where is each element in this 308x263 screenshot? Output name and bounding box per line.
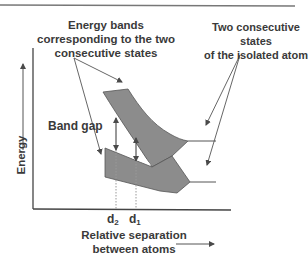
- top-rule: [0, 5, 295, 6]
- x-axis: [33, 209, 231, 210]
- energy-bands-label-line1: Energy bands: [36, 18, 176, 32]
- x-axis-label-line1: Relative separation: [64, 228, 204, 242]
- d1-label-sub: 1: [136, 218, 140, 227]
- bands-pointer-lower-icon: [74, 58, 101, 154]
- energy-band-diagram: Energy bands corresponding to the two co…: [0, 0, 308, 263]
- energy-bands-label: Energy bands corresponding to the two co…: [36, 18, 176, 60]
- isolated-states-label-line2: of the isolated atom: [204, 48, 308, 62]
- states-pointer-upper-icon: [206, 55, 240, 125]
- x-axis-label: Relative separation between atoms: [64, 228, 204, 256]
- d2-label-sub: 2: [114, 218, 118, 227]
- y-axis-label: Energy: [14, 130, 28, 180]
- energy-bands-label-line3: consecutive states: [36, 46, 176, 60]
- bands-pointer-upper-icon: [74, 58, 122, 82]
- states-pointer-lower-icon: [207, 55, 240, 165]
- isolated-states-label-line1: Two consecutive states: [204, 20, 308, 48]
- isolated-states-label: Two consecutive states of the isolated a…: [204, 20, 308, 62]
- x-axis-label-line2: between atoms: [64, 242, 204, 256]
- band-gap-label: Band gap: [48, 119, 103, 133]
- energy-bands-label-line2: corresponding to the two: [36, 32, 176, 46]
